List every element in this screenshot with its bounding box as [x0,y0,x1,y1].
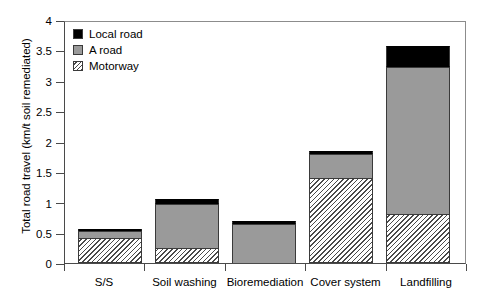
bar-bioremediation [232,22,296,263]
legend-label-a-road: A road [89,44,122,56]
bar-landfilling [386,22,450,263]
x-tick-mark-4 [386,264,387,271]
y-tick-label-0-5: 0.5 [10,228,52,240]
y-tick-mark-0 [56,264,64,265]
chart-legend: Local road A road Motorway [73,26,143,74]
bar-segment-local-road [155,199,219,204]
y-tick-label-1: 1 [10,198,52,210]
y-tick-mark-4 [56,21,64,22]
y-tick-mark-3-5 [56,51,64,52]
x-axis-label-s-s: S/S [64,276,144,289]
y-tick-label-4: 4 [10,15,52,27]
bar-cover-system [309,22,373,263]
y-tick-label-3-5: 3.5 [10,45,52,57]
bar-segment-local-road [78,229,142,231]
bar-segment-local-road [309,151,373,154]
bar-soil-washing [155,22,219,263]
bar-segment-local-road [232,221,296,223]
legend-label-local-road: Local road [89,28,143,40]
bar-segment-a-road [386,67,450,214]
x-tick-mark-0 [64,264,65,271]
y-tick-mark-1-5 [56,173,64,174]
x-tick-mark-2 [225,264,226,271]
bar-chart: Total road travel (km/t soil remediated)… [0,0,481,302]
bar-segment-a-road [232,224,296,264]
x-tick-mark-1 [144,264,145,271]
x-axis-label-landfilling: Landfilling [386,276,466,289]
bar-segment-motorway [78,238,142,264]
y-tick-label-3: 3 [10,76,52,88]
bar-segment-a-road [78,231,142,238]
y-tick-mark-0-5 [56,234,64,235]
hatched-square-icon [73,61,83,71]
bar-segment-a-road [155,204,219,248]
x-axis-label-cover-system: Cover system [305,276,386,289]
legend-label-motorway: Motorway [89,60,139,72]
bar-segment-motorway [155,248,219,263]
legend-item-local-road: Local road [73,26,143,41]
x-tick-mark-3 [305,264,306,271]
bar-segment-motorway [386,214,450,263]
x-axis-label-bioremediation: Bioremediation [225,276,305,289]
bar-segment-a-road [309,154,373,178]
gray-square-icon [73,45,83,55]
y-tick-mark-2 [56,143,64,144]
black-square-icon [73,29,83,39]
y-tick-label-2-5: 2.5 [10,106,52,118]
y-tick-mark-1 [56,203,64,204]
bar-segment-local-road [386,46,450,67]
y-tick-label-2: 2 [10,137,52,149]
y-tick-label-1-5: 1.5 [10,167,52,179]
x-axis-label-soil-washing: Soil washing [144,276,225,289]
x-tick-mark-5 [466,264,467,271]
y-tick-mark-3 [56,82,64,83]
legend-item-motorway: Motorway [73,58,143,73]
legend-item-a-road: A road [73,42,143,57]
y-tick-label-0: 0 [10,258,52,270]
bar-segment-motorway [309,178,373,263]
y-tick-mark-2-5 [56,112,64,113]
